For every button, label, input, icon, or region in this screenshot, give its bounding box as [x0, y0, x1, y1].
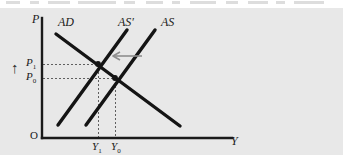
output-tick-y1: Y1 [92, 141, 102, 155]
curve-label-ad: AD [58, 16, 74, 28]
plot-svg [0, 8, 343, 155]
curve-label-as-prime: AS′ [118, 16, 134, 28]
curve-label-as-prime-text: AS [118, 15, 131, 29]
equilibrium-point-new [95, 61, 101, 67]
price-tick-p1-base: P [26, 56, 33, 68]
plot-area: P Y O AD AS′ AS ↑ P1 P0 Y1 Y0 [0, 8, 343, 155]
origin-label: O [30, 130, 38, 141]
output-tick-y1-sub: 1 [98, 147, 102, 155]
y-axis-label: P [32, 13, 39, 25]
scan-noise-band [0, 0, 343, 8]
axes [42, 18, 232, 138]
price-tick-p1-sub: 1 [33, 63, 37, 71]
x-axis-label: Y [231, 135, 238, 147]
price-tick-p0-base: P [26, 70, 33, 82]
curve-label-as: AS [161, 16, 174, 28]
equilibrium-point-original [112, 75, 118, 81]
price-tick-p0: P0 [26, 71, 36, 85]
output-tick-y0-sub: 0 [117, 147, 121, 155]
price-rise-arrow: ↑ [11, 60, 19, 75]
output-tick-y0: Y0 [111, 141, 121, 155]
curve-label-as-prime-mark: ′ [131, 15, 134, 29]
ad-as-diagram-figure: P Y O AD AS′ AS ↑ P1 P0 Y1 Y0 [0, 0, 343, 163]
price-tick-p0-sub: 0 [33, 77, 37, 85]
